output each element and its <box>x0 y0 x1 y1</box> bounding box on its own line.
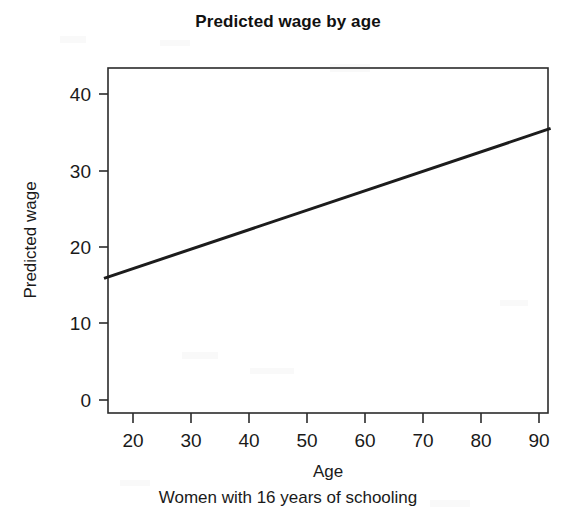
x-tick-label: 70 <box>412 430 433 451</box>
y-tick-label: 20 <box>70 237 91 258</box>
y-axis-title: Predicted wage <box>21 181 40 298</box>
x-tick-label: 20 <box>122 430 143 451</box>
y-tick-label: 0 <box>80 390 91 411</box>
y-axis-ticks <box>99 94 108 400</box>
y-tick-label: 40 <box>70 84 91 105</box>
plot-box-border <box>108 68 548 413</box>
x-axis-title: Age <box>313 462 343 481</box>
chart-figure: Predicted wage by age 0 10 20 30 40 <box>0 0 576 523</box>
x-axis-ticks <box>133 413 539 423</box>
x-tick-label: 60 <box>354 430 375 451</box>
chart-subtitle: Women with 16 years of schooling <box>159 488 418 507</box>
x-tick-label: 80 <box>470 430 491 451</box>
plot-area: 0 10 20 30 40 20 30 40 50 60 70 80 90 Ag… <box>0 0 576 523</box>
x-tick-label: 50 <box>296 430 317 451</box>
x-tick-label: 90 <box>528 430 549 451</box>
y-tick-label: 10 <box>70 313 91 334</box>
x-tick-label: 40 <box>238 430 259 451</box>
y-tick-label: 30 <box>70 161 91 182</box>
x-tick-label: 30 <box>180 430 201 451</box>
series-line-predicted-wage <box>104 128 551 278</box>
